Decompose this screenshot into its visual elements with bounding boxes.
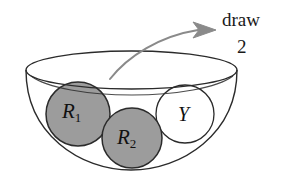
draw-count-label: 2	[237, 37, 247, 56]
ball-label-y-letter: Y	[178, 103, 189, 125]
ball-label-r1: R1	[62, 101, 81, 124]
draw-action-label: draw	[222, 10, 260, 29]
ball-label-r1-subscript: 1	[75, 110, 82, 125]
ball-label-r2: R2	[117, 127, 136, 150]
ball-label-r2-subscript: 2	[130, 136, 137, 151]
ball-label-y: Y	[178, 104, 189, 124]
figure-root: R1 R2 Y draw 2	[0, 0, 281, 178]
ball-label-r1-letter: R	[62, 99, 75, 123]
ball-label-r2-letter: R	[117, 125, 130, 149]
